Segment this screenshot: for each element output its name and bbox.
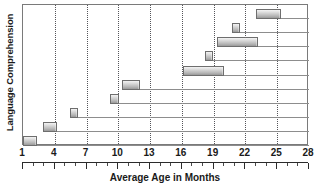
row-baseline — [205, 60, 309, 61]
minor-tick-18 — [202, 163, 203, 166]
major-tick-16 — [181, 163, 182, 169]
gridline-7 — [87, 5, 88, 144]
row-baseline — [43, 131, 309, 132]
x-axis-tick-labels: 14710131619222528 — [22, 147, 308, 161]
bar-row-2 — [43, 122, 57, 132]
minor-tick-6 — [75, 163, 76, 166]
x-tick-label-7: 7 — [83, 147, 89, 158]
major-tick-10 — [117, 163, 118, 169]
minor-tick-2 — [33, 163, 34, 166]
minor-tick-15 — [170, 163, 171, 166]
x-tick-label-28: 28 — [302, 147, 313, 158]
minor-tick-24 — [266, 163, 267, 166]
x-tick-label-1: 1 — [19, 147, 25, 158]
minor-tick-8 — [96, 163, 97, 166]
x-tick-label-10: 10 — [112, 147, 123, 158]
bar-row-8 — [217, 37, 258, 47]
bar-row-7 — [205, 51, 212, 61]
minor-tick-12 — [139, 163, 140, 166]
row-baseline — [70, 117, 309, 118]
bar-row-3 — [70, 108, 78, 118]
bar-row-9 — [232, 23, 240, 33]
minor-tick-11 — [128, 163, 129, 166]
y-axis-title-label: Language Comprehension — [5, 14, 16, 132]
bar-row-10 — [256, 9, 281, 19]
minor-tick-14 — [160, 163, 161, 166]
major-tick-28 — [308, 163, 309, 169]
bar-row-5 — [122, 80, 140, 90]
x-tick-label-4: 4 — [51, 147, 57, 158]
plot-area — [22, 4, 308, 145]
row-baseline — [23, 145, 309, 146]
minor-tick-26 — [287, 163, 288, 166]
gridline-10 — [118, 5, 119, 144]
major-tick-7 — [86, 163, 87, 169]
x-tick-label-19: 19 — [207, 147, 218, 158]
minor-tick-23 — [255, 163, 256, 166]
x-axis-ruler — [22, 162, 308, 169]
x-tick-label-16: 16 — [175, 147, 186, 158]
row-baseline — [122, 89, 309, 90]
x-tick-label-25: 25 — [271, 147, 282, 158]
bar-row-6 — [183, 66, 224, 76]
minor-tick-17 — [191, 163, 192, 166]
x-axis-title: Average Age in Months — [22, 172, 308, 183]
row-baseline — [232, 32, 309, 33]
row-baseline — [110, 103, 309, 104]
minor-tick-21 — [234, 163, 235, 166]
x-tick-label-13: 13 — [144, 147, 155, 158]
minor-tick-5 — [64, 163, 65, 166]
bar-row-4 — [110, 94, 120, 104]
minor-tick-20 — [223, 163, 224, 166]
bar-row-1 — [23, 136, 37, 146]
minor-tick-27 — [297, 163, 298, 166]
major-tick-25 — [276, 163, 277, 169]
x-tick-label-22: 22 — [239, 147, 250, 158]
y-axis-title: Language Comprehension — [0, 0, 20, 145]
major-tick-13 — [149, 163, 150, 169]
major-tick-22 — [244, 163, 245, 169]
major-tick-1 — [22, 163, 23, 169]
gridline-13 — [150, 5, 151, 144]
major-tick-4 — [54, 163, 55, 169]
minor-tick-9 — [107, 163, 108, 166]
language-comprehension-chart: Language Comprehension 14710131619222528… — [0, 0, 321, 187]
minor-tick-3 — [43, 163, 44, 166]
major-tick-19 — [213, 163, 214, 169]
